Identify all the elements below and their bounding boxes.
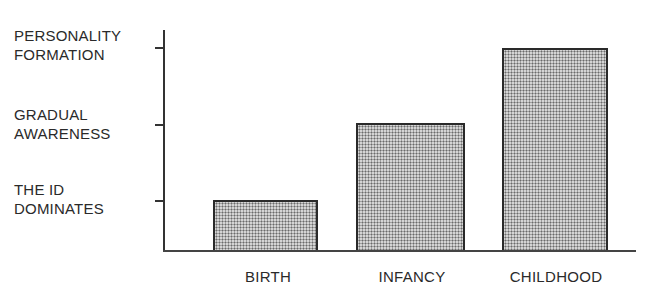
- bar-birth: [213, 200, 318, 251]
- x-label-birth: BIRTH: [218, 268, 318, 286]
- bar-childhood: [502, 48, 608, 251]
- y-tick-1: [155, 200, 164, 202]
- y-axis: [163, 30, 165, 252]
- y-label-line: FORMATION: [14, 45, 121, 64]
- y-label-id-dominates: THE ID DOMINATES: [14, 180, 104, 218]
- y-label-line: DOMINATES: [14, 199, 104, 218]
- y-label-gradual-awareness: GRADUAL AWARENESS: [14, 105, 111, 143]
- y-label-line: GRADUAL: [14, 105, 111, 124]
- y-tick-2: [155, 124, 164, 126]
- y-label-personality-formation: PERSONALITY FORMATION: [14, 26, 121, 64]
- bar-infancy: [356, 123, 465, 251]
- x-label-infancy: INFANCY: [362, 268, 462, 286]
- y-label-line: THE ID: [14, 180, 104, 199]
- y-tick-3: [155, 47, 164, 49]
- x-axis: [163, 250, 636, 252]
- y-label-line: PERSONALITY: [14, 26, 121, 45]
- x-label-childhood: CHILDHOOD: [496, 268, 616, 286]
- y-label-line: AWARENESS: [14, 124, 111, 143]
